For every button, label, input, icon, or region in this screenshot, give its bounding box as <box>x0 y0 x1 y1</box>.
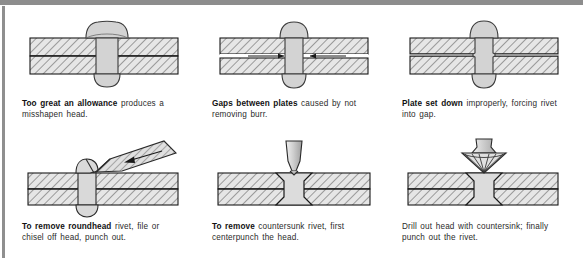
gap-between-plates-diagram <box>210 16 378 92</box>
chisel-off-roundhead-diagram <box>20 139 188 215</box>
panel-too-great-an-allowance: Too great an allowance produces a missha… <box>8 10 198 133</box>
page-frame-top-gap <box>0 5 583 7</box>
panel-drill-out-head: Drill out head with countersink; finally… <box>388 133 578 256</box>
plate-set-down-diagram <box>400 16 568 92</box>
caption-lead: Gaps between plates <box>212 99 298 108</box>
rivet-too-much-allowance-diagram <box>20 16 188 92</box>
page-frame-left-rule <box>2 6 5 258</box>
panel-plate-set-down: Plate set down improperly, forcing rivet… <box>388 10 578 133</box>
centerpunch-countersunk-diagram <box>210 139 378 215</box>
panel-caption: Plate set down improperly, forcing rivet… <box>402 98 564 121</box>
countersink-drill-out-diagram <box>400 139 568 215</box>
illustration-page: Too great an allowance produces a missha… <box>0 0 583 258</box>
panel-caption: To remove roundhead rivet, file or chise… <box>22 221 184 244</box>
panel-remove-countersunk: To remove countersunk rivet, first cente… <box>198 133 388 256</box>
caption-lead: To remove roundhead <box>22 222 111 231</box>
caption-lead: Plate set down <box>402 99 463 108</box>
panel-remove-roundhead: To remove roundhead rivet, file or chise… <box>8 133 198 256</box>
panel-gaps-between-plates: Gaps between plates caused by not removi… <box>198 10 388 133</box>
caption-lead: Too great an allowance <box>22 99 117 108</box>
page-frame-right-bleed <box>579 6 583 258</box>
caption-body: Drill out head with countersink; finally… <box>402 222 548 242</box>
panel-caption: Too great an allowance produces a missha… <box>22 98 184 121</box>
panel-grid: Too great an allowance produces a missha… <box>8 10 578 256</box>
caption-lead: To remove <box>212 222 255 231</box>
panel-caption: To remove countersunk rivet, first cente… <box>212 221 374 244</box>
panel-caption: Gaps between plates caused by not removi… <box>212 98 374 121</box>
panel-caption: Drill out head with countersink; finally… <box>402 221 564 244</box>
